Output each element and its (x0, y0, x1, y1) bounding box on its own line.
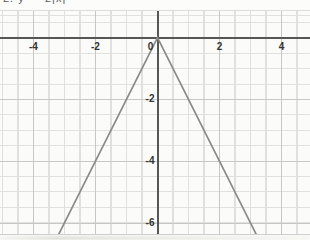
y-tick-label: -6 (146, 218, 155, 228)
x-tick-label: -2 (91, 42, 100, 52)
scan-shadow (0, 236, 310, 240)
x-tick-label: 4 (279, 42, 285, 52)
exercise-title-cropped: 2. y = -2|x| (3, 0, 66, 4)
graph-page: 2. y = -2|x| -4-2024-2-4-6 (0, 0, 310, 240)
curve-layer (0, 11, 310, 234)
x-tick-label: 0 (148, 42, 154, 52)
plot-region: -4-2024-2-4-6 (0, 10, 310, 235)
x-tick-label: 2 (217, 42, 223, 52)
y-tick-label: -2 (146, 94, 155, 104)
x-tick-label: -4 (29, 42, 38, 52)
y-tick-label: -4 (146, 156, 155, 166)
function-line-absolute-value (57, 38, 259, 234)
